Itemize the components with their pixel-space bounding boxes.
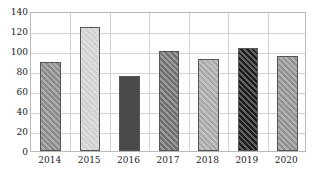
bar — [277, 56, 298, 151]
y-axis-tick-label: 80 — [2, 68, 28, 77]
gridline-vertical — [268, 13, 269, 151]
y-axis-tick-label: 20 — [2, 128, 28, 137]
gridline-vertical — [189, 13, 190, 151]
x-axis-tick-label: 2017 — [157, 156, 180, 165]
gridline-vertical — [228, 13, 229, 151]
gridline-horizontal — [31, 33, 305, 34]
x-axis-tick-label: 2016 — [117, 156, 140, 165]
gridline-vertical — [70, 13, 71, 151]
bar-chart: 020406080100120140 201420152016201720182… — [0, 0, 312, 184]
bar — [40, 62, 61, 151]
y-axis-tick-label: 140 — [2, 8, 28, 17]
x-axis-tick-label: 2019 — [235, 156, 258, 165]
gridline-vertical — [110, 13, 111, 151]
y-axis-tick-label: 60 — [2, 88, 28, 97]
bar — [80, 27, 101, 151]
bar — [198, 59, 219, 151]
plot-area — [30, 12, 306, 152]
x-axis-tick-labels: 2014201520162017201820192020 — [30, 154, 306, 172]
y-axis-tick-label: 100 — [2, 48, 28, 57]
x-axis-tick-label: 2020 — [275, 156, 298, 165]
gridline-vertical — [149, 13, 150, 151]
y-axis-tick-label: 0 — [2, 148, 28, 157]
bar — [119, 76, 140, 151]
x-axis-tick-label: 2018 — [196, 156, 219, 165]
y-axis-tick-labels: 020406080100120140 — [0, 12, 28, 152]
x-axis-tick-label: 2014 — [38, 156, 61, 165]
x-axis-tick-label: 2015 — [78, 156, 101, 165]
bar — [238, 48, 259, 151]
y-axis-tick-label: 40 — [2, 108, 28, 117]
bar — [159, 51, 180, 151]
y-axis-tick-label: 120 — [2, 28, 28, 37]
